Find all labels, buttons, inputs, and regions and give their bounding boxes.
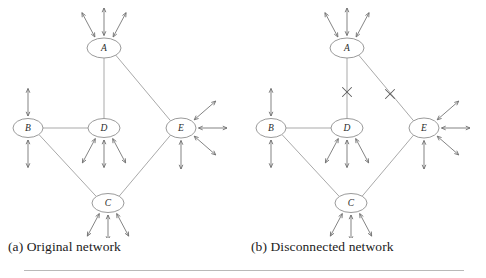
external-link-e-2 [194,136,216,155]
edge-b-c [39,135,96,197]
panel-original-network: ABDEC [0,0,243,278]
node-a-label: A [343,43,350,53]
external-link-c-0 [87,214,99,237]
network-figure: ABDEC ABDEC (a) Original network (b) Dis… [0,0,486,278]
node-c[interactable]: C [92,194,124,213]
node-c-label: C [105,198,112,208]
node-e[interactable]: E [409,118,439,138]
edge-c-e [119,135,170,196]
external-link-a-2 [356,13,369,37]
edge-a-e [116,55,171,121]
node-b[interactable]: B [256,119,286,138]
caption-disconnected-network: (b) Disconnected network [251,239,394,255]
node-c[interactable]: C [335,194,367,213]
edge-c-e [362,135,413,196]
figure-divider-rule [24,270,464,271]
external-link-group [269,8,470,238]
external-link-c-2 [117,214,129,237]
node-e[interactable]: E [166,118,196,138]
node-c-label: C [348,198,355,208]
node-d[interactable]: D [88,119,120,138]
external-link-c-0 [330,214,342,237]
edge-b-c [282,135,339,197]
disconnected-network-diagram: ABDEC [243,0,486,238]
node-d-label: D [100,123,108,133]
external-link-c-2 [360,214,372,237]
external-link-e-2 [437,136,459,155]
node-e-label: E [420,123,427,133]
node-d-label: D [343,123,351,133]
external-link-d-2 [356,139,369,163]
caption-original-network: (a) Original network [8,239,121,255]
external-link-d-0 [82,139,95,163]
node-b[interactable]: B [13,119,43,138]
external-link-d-0 [325,139,338,163]
external-link-d-2 [113,139,126,163]
external-link-a-2 [113,13,126,37]
node-d[interactable]: D [331,119,363,138]
node-b-label: B [268,123,274,133]
node-a-label: A [100,43,107,53]
node-a[interactable]: A [87,38,121,58]
node-group: ABDEC [256,38,439,213]
external-link-e-0 [194,101,216,120]
external-link-e-0 [437,101,459,120]
external-link-group [26,8,227,238]
external-link-a-0 [325,13,338,37]
node-e-label: E [177,123,184,133]
panel-disconnected-network: ABDEC [243,0,486,278]
node-group: ABDEC [13,38,196,213]
edge-a-e [359,55,414,121]
node-b-label: B [25,123,31,133]
original-network-diagram: ABDEC [0,0,243,238]
node-a[interactable]: A [330,38,364,58]
external-link-a-0 [82,13,95,37]
